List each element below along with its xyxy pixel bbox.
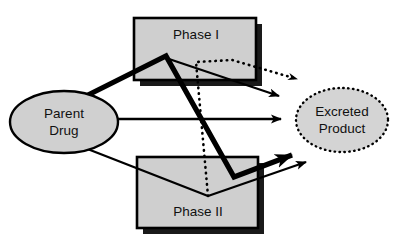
diagram-canvas: Phase I Phase II Parent Drug [0,0,397,236]
excreted-product-label-line2: Product [319,121,366,136]
phase-one-label: Phase I [173,27,219,42]
parent-drug-label-line1: Parent [44,106,84,121]
excreted-product-node[interactable]: Excreted Product [296,88,388,152]
phase-two-label: Phase II [173,204,223,219]
diagram-svg: Phase I Phase II Parent Drug [0,0,397,236]
parent-drug-label-line2: Drug [49,123,78,138]
parent-drug-node[interactable]: Parent Drug [10,91,118,153]
phase-two-node[interactable]: Phase II [137,157,264,234]
excreted-product-label-line1: Excreted [315,104,368,119]
